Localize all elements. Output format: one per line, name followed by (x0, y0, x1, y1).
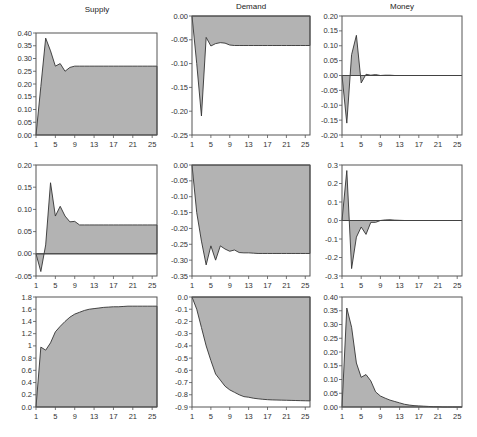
chart-panel-row1-col1: 0.000.050.100.150.200.250.300.350.401591… (17, 29, 157, 149)
x-tick-label: 9 (378, 412, 382, 421)
x-tick-label: 17 (109, 140, 117, 149)
y-tick-label: -0.20 (171, 224, 188, 233)
x-tick-label: 5 (53, 412, 57, 421)
response-area (36, 306, 157, 407)
x-tick-label: 17 (263, 412, 271, 421)
x-tick-label: 21 (434, 140, 442, 149)
x-tick-label: 13 (244, 281, 252, 290)
y-tick-label: 0.3 (328, 161, 338, 170)
x-tick-label: 5 (209, 412, 213, 421)
column-title-supply: Supply (85, 5, 109, 14)
x-tick-label: 21 (129, 140, 137, 149)
y-tick-label: 0.25 (17, 67, 32, 76)
y-tick-label: -0.25 (171, 131, 188, 140)
y-tick-label: -0.05 (171, 176, 188, 185)
x-tick-label: 25 (453, 281, 461, 290)
x-tick-label: 17 (263, 140, 271, 149)
y-tick-label: 0.00 (173, 161, 188, 170)
x-tick-label: 5 (359, 281, 363, 290)
chart-panel-row1-col3: -0.20-0.15-0.10-0.050.000.050.100.150.20… (321, 12, 462, 149)
y-tick-label: 1.6 (22, 305, 32, 314)
y-tick-label: -0.05 (15, 272, 32, 281)
y-tick-label: -0.10 (321, 101, 338, 110)
y-tick-label: -0.2 (175, 317, 188, 326)
x-tick-label: 5 (359, 412, 363, 421)
y-tick-label: -0.1 (325, 235, 338, 244)
x-tick-label: 1 (34, 281, 38, 290)
y-tick-label: 0.2 (328, 179, 338, 188)
y-tick-label: 0.40 (17, 29, 32, 38)
x-tick-label: 9 (228, 281, 232, 290)
y-tick-label: -0.25 (171, 240, 188, 249)
y-tick-label: -0.15 (171, 208, 188, 217)
x-tick-label: 13 (90, 412, 98, 421)
y-tick-label: 0.10 (17, 105, 32, 114)
y-tick-label: -0.20 (171, 107, 188, 116)
x-tick-label: 9 (228, 140, 232, 149)
chart-panel-row1-col2: -0.25-0.20-0.15-0.10-0.050.0015913172125 (171, 12, 310, 149)
y-tick-label: 0.35 (323, 306, 338, 315)
y-tick-label: 0.4 (22, 378, 32, 387)
y-tick-label: 0.00 (173, 12, 188, 21)
y-tick-label: 0.00 (17, 131, 32, 140)
x-tick-label: 1 (190, 412, 194, 421)
y-tick-label: -0.3 (325, 272, 338, 281)
x-tick-label: 9 (228, 412, 232, 421)
x-tick-label: 21 (282, 140, 290, 149)
y-tick-label: -0.05 (171, 35, 188, 44)
x-tick-label: 1 (34, 412, 38, 421)
y-tick-label: 0.05 (17, 227, 32, 236)
y-tick-label: 0.40 (323, 293, 338, 302)
y-tick-label: -0.9 (175, 403, 188, 412)
y-tick-label: 0.35 (17, 41, 32, 50)
x-tick-label: 25 (148, 412, 156, 421)
y-tick-label: 0.1 (328, 198, 338, 207)
y-tick-label: 1.4 (22, 317, 32, 326)
y-tick-label: 0.20 (17, 161, 32, 170)
x-tick-label: 5 (209, 281, 213, 290)
x-tick-label: 9 (378, 140, 382, 149)
y-tick-label: 0.15 (323, 361, 338, 370)
y-tick-label: 0.0 (328, 216, 338, 225)
x-tick-label: 9 (73, 412, 77, 421)
x-tick-label: 17 (263, 281, 271, 290)
response-area (342, 35, 462, 123)
y-tick-label: 0.10 (323, 375, 338, 384)
y-tick-label: -0.8 (175, 390, 188, 399)
x-tick-label: 21 (129, 281, 137, 290)
y-tick-label: -0.05 (321, 86, 338, 95)
x-tick-label: 13 (244, 140, 252, 149)
x-tick-label: 25 (148, 140, 156, 149)
chart-panel-row3-col3: 0.000.050.100.150.200.250.300.350.401591… (323, 293, 462, 421)
y-tick-label: 0.05 (323, 56, 338, 65)
y-tick-label: 1 (28, 341, 32, 350)
x-tick-label: 25 (301, 412, 309, 421)
y-tick-label: 0.10 (323, 41, 338, 50)
x-tick-label: 1 (190, 140, 194, 149)
x-tick-label: 5 (209, 140, 213, 149)
y-tick-label: 0.0 (178, 293, 188, 302)
y-tick-label: 0.20 (323, 348, 338, 357)
y-tick-label: 1.8 (22, 293, 32, 302)
y-tick-label: 0.10 (17, 205, 32, 214)
x-tick-label: 13 (395, 281, 403, 290)
x-tick-label: 25 (148, 281, 156, 290)
chart-panel-row2-col1: -0.050.000.050.100.150.2015913172125 (15, 161, 157, 290)
y-tick-label: -0.35 (171, 272, 188, 281)
column-title-money: Money (390, 2, 414, 11)
x-tick-label: 21 (129, 412, 137, 421)
y-tick-label: -0.10 (171, 192, 188, 201)
x-tick-label: 5 (53, 281, 57, 290)
y-tick-label: -0.5 (175, 354, 188, 363)
x-tick-label: 17 (415, 140, 423, 149)
y-tick-label: 0.15 (323, 26, 338, 35)
x-tick-label: 25 (301, 140, 309, 149)
x-tick-label: 21 (282, 281, 290, 290)
y-tick-label: 0.00 (323, 71, 338, 80)
chart-panel-row3-col2: -0.9-0.8-0.7-0.6-0.5-0.4-0.3-0.2-0.10.01… (175, 293, 310, 421)
response-area (342, 171, 462, 269)
response-area (342, 308, 462, 407)
x-tick-label: 25 (301, 281, 309, 290)
x-tick-label: 13 (395, 140, 403, 149)
x-tick-label: 21 (434, 281, 442, 290)
